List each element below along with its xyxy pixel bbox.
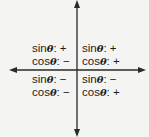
x-axis-left-arrow-icon [9,67,17,73]
sin-sign: : + [103,42,116,54]
sin-sign-row: sinθ: + [32,42,70,55]
quadrant-iv: sinθ: − cosθ: + [82,73,120,99]
cos-sign-row: cosθ: + [82,86,120,99]
cos-sign: : − [57,86,70,98]
sin-label: sin [32,42,47,54]
sin-sign-row: sinθ: + [82,42,120,55]
y-axis-up-arrow-icon [74,0,80,8]
theta-symbol: θ [100,87,107,98]
quadrant-ii: sinθ: + cosθ: − [32,42,70,68]
quadrant-i: sinθ: + cosθ: + [82,42,120,68]
cos-sign: : + [107,55,120,67]
theta-symbol: θ [50,87,57,98]
sin-label: sin [82,73,97,85]
cos-sign-row: cosθ: − [32,55,70,68]
cos-sign: : + [107,86,120,98]
x-axis-right-arrow-icon [138,67,146,73]
sin-sign-row: sinθ: − [82,73,120,86]
cos-sign-row: cosθ: − [32,86,70,99]
cos-label: cos [32,55,50,67]
theta-symbol: θ [50,56,57,67]
sin-sign-row: sinθ: − [32,73,70,86]
cos-label: cos [32,86,50,98]
cos-sign: : − [57,55,70,67]
coordinate-axes [0,0,149,137]
cos-label: cos [82,86,100,98]
sin-sign: : − [103,73,116,85]
cos-label: cos [82,55,100,67]
sin-label: sin [82,42,97,54]
sin-label: sin [32,73,47,85]
theta-symbol: θ [100,56,107,67]
quadrant-iii: sinθ: − cosθ: − [32,73,70,99]
cos-sign-row: cosθ: + [82,55,120,68]
sin-sign: : − [53,73,66,85]
y-axis-down-arrow-icon [74,129,80,137]
sin-sign: : + [53,42,66,54]
